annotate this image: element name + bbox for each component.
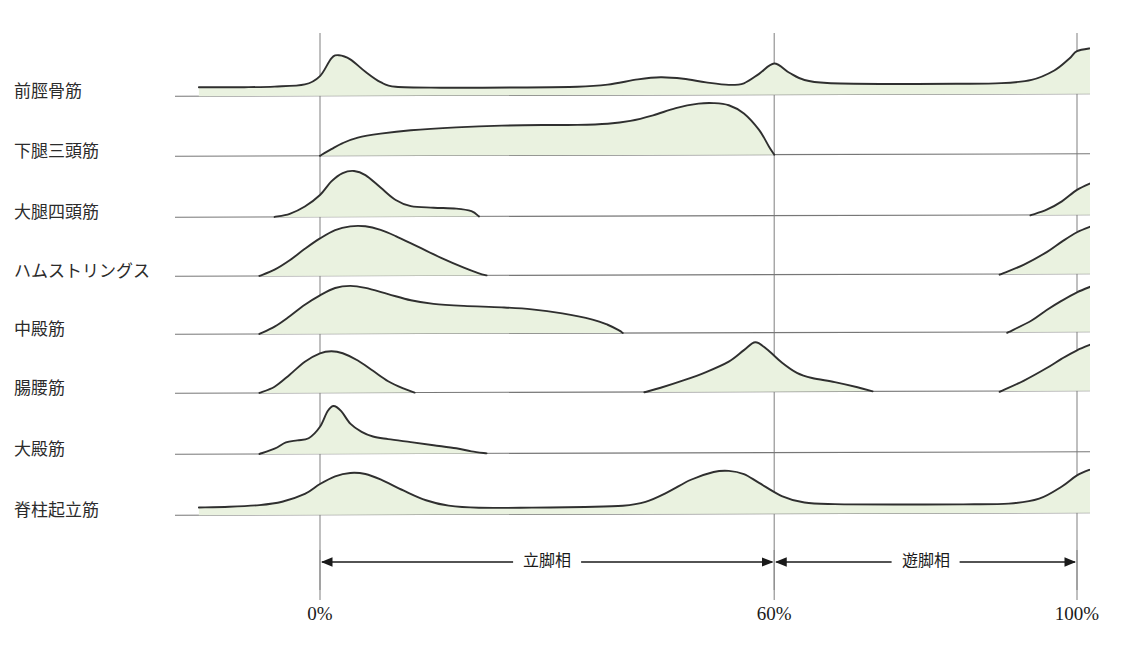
muscle-label-3: ハムストリングス: [14, 262, 150, 281]
emg-envelope-areas: [199, 48, 1092, 515]
emg-envelope-0-0: [199, 48, 1092, 96]
envelope-fill: [644, 342, 872, 392]
emg-envelope-4-1: [1007, 286, 1092, 333]
emg-envelope-3-1: [1000, 226, 1093, 275]
phase-axis-group: 立脚相遊脚相: [320, 550, 1077, 600]
muscle-label-1: 下腿三頭筋: [14, 142, 99, 161]
emg-envelope-5-0: [259, 351, 414, 393]
envelope-fill: [259, 286, 622, 334]
muscle-label-4: 中殿筋: [14, 320, 65, 339]
muscle-label-group: 前脛骨筋下腿三頭筋大腿四頭筋ハムストリングス中殿筋腸腰筋大殿筋脊柱起立筋: [14, 82, 150, 520]
envelope-fill: [199, 469, 1092, 515]
phase-label-1: 遊脚相: [902, 552, 950, 569]
envelope-fill: [275, 171, 479, 217]
envelope-fill: [259, 226, 486, 276]
envelope-fill: [259, 351, 414, 393]
muscle-label-2: 大腿四頭筋: [14, 203, 99, 222]
emg-envelope-4-0: [259, 286, 622, 334]
emg-envelope-7-0: [199, 469, 1092, 515]
envelope-fill: [1000, 226, 1093, 275]
emg-envelope-6-0: [259, 406, 486, 454]
x-tick-label-0pct: 0%: [307, 603, 333, 624]
emg-envelope-3-0: [259, 226, 486, 276]
envelope-fill: [320, 103, 774, 156]
emg-chart-canvas: 前脛骨筋下腿三頭筋大腿四頭筋ハムストリングス中殿筋腸腰筋大殿筋脊柱起立筋 立脚相…: [0, 0, 1125, 654]
emg-envelope-5-2: [1000, 344, 1093, 392]
muscle-label-7: 脊柱起立筋: [14, 501, 99, 520]
emg-envelope-5-1: [644, 342, 872, 392]
muscle-label-6: 大殿筋: [14, 440, 65, 459]
x-axis-tick-group: 0%60%100%: [307, 603, 1099, 624]
muscle-label-5: 腸腰筋: [14, 379, 65, 398]
emg-gait-figure: 前脛骨筋下腿三頭筋大腿四頭筋ハムストリングス中殿筋腸腰筋大殿筋脊柱起立筋 立脚相…: [0, 0, 1125, 654]
phase-label-0: 立脚相: [523, 552, 571, 569]
muscle-label-0: 前脛骨筋: [14, 82, 82, 101]
emg-envelope-2-0: [275, 171, 479, 217]
emg-envelope-1-0: [320, 103, 774, 156]
x-tick-label-60pct: 60%: [757, 603, 792, 624]
envelope-fill: [199, 48, 1092, 96]
emg-envelope-2-1: [1030, 183, 1092, 216]
x-tick-label-100pct: 100%: [1055, 603, 1100, 624]
